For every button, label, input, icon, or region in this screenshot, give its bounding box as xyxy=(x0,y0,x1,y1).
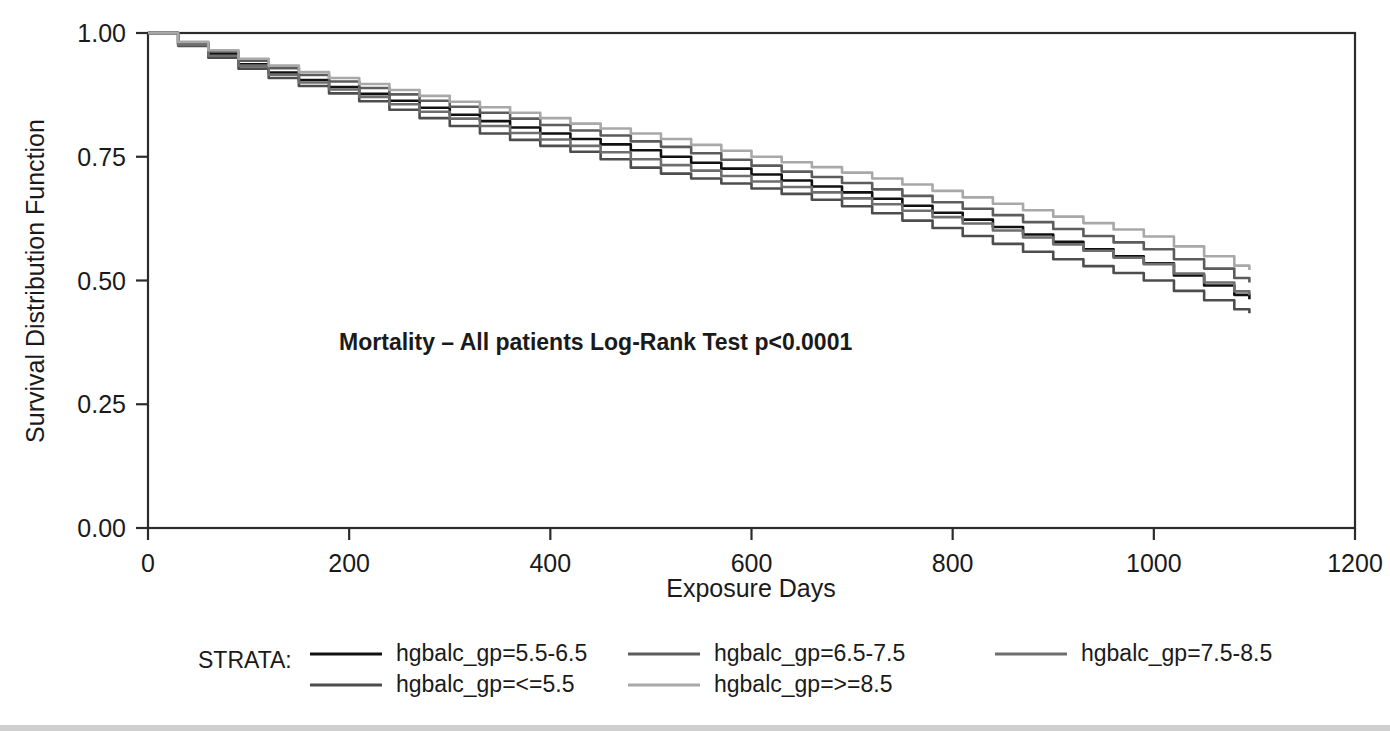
kaplan-meier-chart: 0.000.250.500.751.00 0200400600800100012… xyxy=(0,0,1390,731)
legend-entry-label: hgbalc_gp=5.5-6.5 xyxy=(396,640,587,666)
survival-curves xyxy=(148,33,1249,313)
x-tick-label: 600 xyxy=(731,549,773,577)
y-tick-label: 0.00 xyxy=(77,514,126,542)
plot-annotations: Mortality – All patients Log-Rank Test p… xyxy=(339,329,852,355)
x-tick-label: 800 xyxy=(932,549,974,577)
y-tick-label: 0.25 xyxy=(77,390,126,418)
x-tick-label: 200 xyxy=(328,549,370,577)
scan-edge-strip xyxy=(0,725,1390,731)
plot-annotation-text: Mortality – All patients Log-Rank Test p… xyxy=(339,329,852,355)
legend-entry-label: hgbalc_gp=<=5.5 xyxy=(396,671,574,697)
legend: hgbalc_gp=5.5-6.5hgbalc_gp=6.5-7.5hgbalc… xyxy=(310,640,1272,697)
x-tick-label: 0 xyxy=(141,549,155,577)
legend-entry-label: hgbalc_gp=>=8.5 xyxy=(714,671,892,697)
survival-plot-figure: 0.000.250.500.751.00 0200400600800100012… xyxy=(0,0,1390,731)
scan-edge-bar xyxy=(0,725,1390,731)
x-tick-label: 400 xyxy=(529,549,571,577)
legend-title: STRATA: xyxy=(198,647,292,673)
legend-entry-label: hgbalc_gp=7.5-8.5 xyxy=(1081,640,1272,666)
y-axis: 0.000.250.500.751.00 xyxy=(77,19,148,542)
x-axis-title: Exposure Days xyxy=(666,574,836,602)
x-tick-label: 1000 xyxy=(1126,549,1182,577)
x-axis: 020040060080010001200 xyxy=(141,528,1383,577)
y-tick-label: 1.00 xyxy=(77,19,126,47)
y-tick-label: 0.75 xyxy=(77,143,126,171)
y-axis-title: Survival Distribution Function xyxy=(21,119,49,443)
legend-entry-label: hgbalc_gp=6.5-7.5 xyxy=(714,640,905,666)
y-tick-label: 0.50 xyxy=(77,267,126,295)
x-tick-label: 1200 xyxy=(1327,549,1383,577)
